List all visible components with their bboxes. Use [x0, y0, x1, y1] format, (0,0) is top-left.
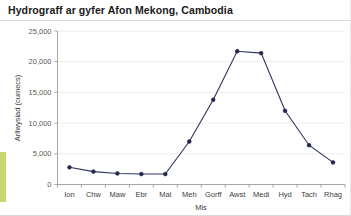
x-tick-label: Medi	[253, 190, 270, 199]
data-point	[139, 172, 143, 176]
y-tick-label: 10,000	[29, 119, 52, 128]
x-tick-label: Chw	[86, 190, 102, 199]
x-tick-label: Maw	[109, 190, 125, 199]
y-axis-title: Arllwysiad (cumecs)	[13, 74, 22, 141]
data-point	[163, 172, 167, 176]
y-tick-label: 5,000	[33, 149, 52, 158]
y-tick-labels-group: 05,00010,00015,00020,00025,000	[29, 27, 52, 190]
data-point	[92, 170, 96, 174]
y-tick-label: 15,000	[29, 88, 52, 97]
x-tick-label: Ion	[64, 190, 74, 199]
x-tick-label: Gorff	[205, 190, 222, 199]
data-point	[187, 140, 191, 144]
x-tick-label: Ebr	[136, 190, 148, 199]
data-point	[116, 172, 120, 176]
y-tick-label: 25,000	[29, 27, 52, 36]
data-point	[283, 109, 287, 113]
x-tick-label: Meh	[182, 190, 197, 199]
x-tick-labels-group: IonChwMawEbrMaiMehGorffAwstMediHydTachRh…	[64, 190, 342, 199]
x-tick-label: Tach	[301, 190, 317, 199]
data-point	[331, 161, 335, 165]
data-point	[68, 165, 72, 169]
discharge-line	[69, 51, 333, 174]
data-point	[259, 51, 263, 55]
data-point	[211, 98, 215, 102]
chart-card: Hydrograff ar gyfer Afon Mekong, Cambodi…	[0, 0, 351, 216]
x-tick-label: Rhag	[324, 190, 342, 199]
x-tick-label: Hyd	[278, 190, 291, 199]
plot-area: 05,00010,00015,00020,00025,000 IonChwMaw…	[0, 0, 351, 216]
y-tick-label: 20,000	[29, 57, 52, 66]
hydrograph-svg: 05,00010,00015,00020,00025,000 IonChwMaw…	[0, 0, 351, 216]
x-axis-title: Mis	[195, 203, 207, 212]
y-tick-label: 0	[47, 180, 51, 189]
x-tick-label: Awst	[229, 190, 246, 199]
data-point	[235, 49, 239, 53]
x-tick-label: Mai	[159, 190, 171, 199]
data-point	[307, 143, 311, 147]
discharge-markers-group	[68, 49, 335, 176]
